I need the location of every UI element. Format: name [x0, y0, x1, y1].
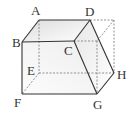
vertex-label-f: F — [14, 95, 21, 110]
vertex-label-d: D — [85, 4, 94, 19]
vertex-label-b: B — [12, 35, 21, 50]
vertex-label-e: E — [27, 63, 35, 78]
vertex-label-a: A — [31, 3, 41, 18]
vertex-label-g: G — [93, 97, 102, 112]
vertex-label-h: H — [117, 67, 126, 82]
vertex-label-c: C — [64, 43, 73, 58]
cube-diagram: A B C D E F G H — [0, 0, 131, 115]
